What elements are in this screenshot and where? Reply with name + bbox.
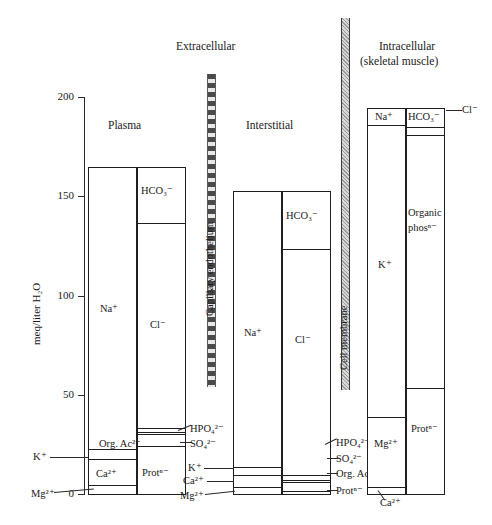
- leader-interstitial-prot: [327, 490, 338, 491]
- segment-interstitial-hco3: [283, 192, 330, 250]
- leader-plasma-k: [50, 457, 88, 458]
- segment-interstitial-orgac: [283, 483, 330, 492]
- callout-interstitial-mg: Mg²⁺: [180, 489, 204, 501]
- label-plasma-prot: Protⁿ⁻: [142, 466, 169, 478]
- callout-plasma-orgac: Org. Ac²⁻: [99, 437, 141, 449]
- segment-intracellular-ca: [368, 488, 405, 494]
- leader-intracellular-cl: [446, 110, 462, 111]
- leader-interstitial-so4: [327, 458, 338, 459]
- y-axis-title: meq/liter H₂O: [30, 283, 42, 345]
- leader-plasma-so4: [180, 442, 192, 443]
- callout-plasma-mg: Mg²⁺: [31, 487, 55, 499]
- callout-plasma-hpo4: HPO₄²⁻: [190, 422, 224, 434]
- segment-plasma-mg: [89, 486, 136, 495]
- label-intracellular-k: K⁺: [378, 258, 392, 270]
- segment-intracellular-prot: [407, 389, 444, 494]
- segment-plasma-orgac: [138, 435, 185, 447]
- y-tick-100: [78, 296, 84, 297]
- callout-interstitial-so4: SO₄²⁻: [336, 452, 362, 464]
- segment-intracellular-k: [368, 126, 405, 418]
- segment-intracellular-cl: [407, 128, 444, 136]
- callout-plasma-so4: SO₄²⁻: [190, 437, 216, 449]
- segment-intracellular-mg: [368, 418, 405, 488]
- header-intracellular-line2: (skeletal muscle): [360, 55, 438, 67]
- segment-plasma-hco3: [138, 168, 185, 224]
- y-axis-line: [84, 97, 85, 495]
- y-tick-label-50: 50: [38, 388, 74, 400]
- callout-plasma-k: K⁺: [33, 450, 47, 462]
- leader-interstitial-mg: [205, 491, 235, 495]
- y-tick-200: [78, 97, 84, 98]
- label-intracellular-hco3: HCO₃⁻: [408, 110, 440, 122]
- label-interstitial-cl: Cl⁻: [295, 333, 311, 345]
- label-intracellular-orgphos-line1: Organic: [408, 207, 442, 218]
- header-extracellular: Extracellular: [176, 40, 235, 52]
- y-tick-label-150: 150: [38, 189, 74, 201]
- segment-plasma-k: [89, 450, 136, 460]
- label-intracellular-na: Na⁺: [375, 110, 393, 122]
- label-plasma-hco3: HCO₃⁻: [141, 184, 173, 196]
- header-intracellular-line1: Intracellular: [379, 40, 435, 52]
- leader-interstitial-orgac: [327, 473, 338, 474]
- label-intracellular-prot: Protⁿ⁻: [411, 422, 438, 434]
- y-tick-0: [78, 494, 84, 495]
- y-tick-label-200: 200: [38, 90, 74, 102]
- segment-interstitial-cl: [283, 250, 330, 476]
- figure-canvas: 200 150 100 50 0 meq/liter H₂O Extracell…: [0, 0, 492, 525]
- column-title-plasma: Plasma: [108, 119, 141, 131]
- column-title-interstitial: Interstitial: [246, 119, 293, 131]
- capillary-endothelium-label: Capillary endothelium: [204, 222, 215, 316]
- callout-intracellular-cl: Cl⁻: [462, 103, 478, 115]
- y-tick-150: [78, 196, 84, 197]
- segment-interstitial-ca: [234, 476, 281, 488]
- callout-interstitial-ca: Ca²⁺: [183, 474, 204, 486]
- bar-intracellular-anions: [406, 108, 445, 495]
- cell-membrane-label: Cell membrane: [338, 306, 349, 370]
- callout-interstitial-prot: Protⁿ⁻: [336, 484, 363, 496]
- leader-interstitial-k: [204, 468, 234, 469]
- bar-interstitial-cations: [233, 191, 282, 495]
- label-plasma-na: Na⁺: [100, 302, 118, 314]
- label-intracellular-orgphos-line2: phosⁿ⁻: [408, 221, 437, 233]
- segment-interstitial-mg: [234, 488, 281, 495]
- segment-interstitial-prot: [283, 492, 330, 495]
- leader-interstitial-ca: [207, 481, 234, 482]
- label-interstitial-hco3: HCO₃⁻: [286, 209, 318, 221]
- segment-interstitial-k: [234, 468, 281, 476]
- callout-interstitial-hpo4: HPO₄²⁻: [336, 436, 370, 448]
- label-plasma-cl: Cl⁻: [150, 318, 166, 330]
- segment-intracellular-orgphos: [407, 136, 444, 389]
- y-tick-50: [78, 395, 84, 396]
- label-plasma-ca: Ca²⁺: [96, 467, 117, 479]
- label-intracellular-mg: Mg²⁺: [374, 437, 398, 449]
- y-tick-label-100: 100: [38, 289, 74, 301]
- label-interstitial-na: Na⁺: [244, 326, 262, 338]
- bar-plasma-anions: [137, 167, 186, 495]
- callout-interstitial-k: K⁺: [188, 461, 202, 473]
